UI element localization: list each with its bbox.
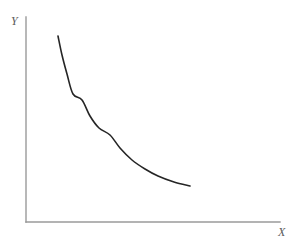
plot-canvas [0, 0, 295, 246]
plot-background [0, 0, 295, 246]
y-axis-label: Y [11, 15, 18, 27]
x-axis-label: X [278, 226, 285, 238]
chart-figure: Y X [0, 0, 295, 246]
